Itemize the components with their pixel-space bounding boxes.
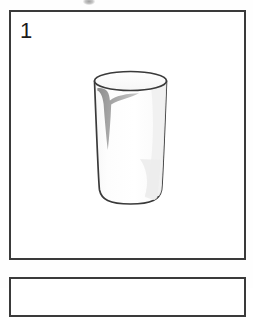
- panel-1[interactable]: 1: [9, 10, 246, 260]
- panel-2[interactable]: [9, 277, 246, 317]
- drinking-glass-illustration: [83, 64, 178, 209]
- scan-smudge-artifact: [83, 0, 95, 5]
- panel-number-label: 1: [20, 20, 32, 42]
- glass-rim: [95, 72, 167, 91]
- drinking-glass-svg: [83, 64, 178, 209]
